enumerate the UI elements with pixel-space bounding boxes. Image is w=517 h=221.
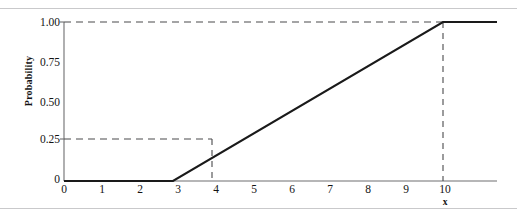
figure-container: Probability 1.00 0.75 0.50 0.25 0 0 1 2 … — [0, 0, 517, 221]
x-tick-label-5: 5 — [242, 184, 266, 196]
x-tick-label-9: 9 — [394, 184, 418, 196]
x-tick-label-10: 10 — [433, 184, 457, 196]
x-tick-label-2: 2 — [128, 184, 152, 196]
x-tick-label-0: 0 — [52, 184, 76, 196]
x-tick-label-6: 6 — [280, 184, 304, 196]
x-tick-label-8: 8 — [356, 184, 380, 196]
x-tick-label-3: 3 — [166, 184, 190, 196]
x-tick-label-4: 4 — [204, 184, 228, 196]
cdf-line-series — [64, 22, 497, 181]
x-axis-title: x — [433, 198, 457, 208]
x-tick-label-7: 7 — [318, 184, 342, 196]
x-tick-label-1: 1 — [90, 184, 114, 196]
